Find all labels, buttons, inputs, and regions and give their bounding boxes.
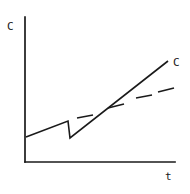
figure-container: C t C	[0, 0, 190, 194]
dash-segment-3	[136, 95, 152, 98]
x-axis-label: t	[165, 171, 172, 182]
dashed-curve	[77, 88, 174, 118]
dash-segment-1	[77, 115, 93, 118]
plot-canvas	[0, 0, 190, 194]
solid-curve-label: C	[173, 57, 180, 68]
dash-segment-4	[158, 88, 174, 92]
y-axis-label: C	[7, 21, 14, 32]
solid-curve	[26, 61, 168, 138]
